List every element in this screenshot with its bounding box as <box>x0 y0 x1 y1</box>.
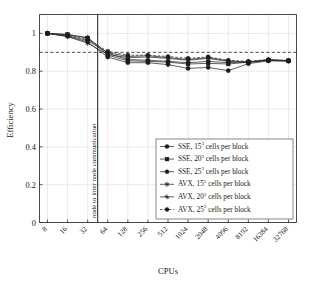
x-tick-label: 8192 <box>234 225 250 241</box>
y-axis-ticks: 00.20.40.60.81 <box>26 29 43 227</box>
chart-legend: SSE, 153 cells per blockSSE, 203 cells p… <box>156 139 293 219</box>
x-tick-label: 32768 <box>272 225 291 244</box>
x-tick-label: 2048 <box>194 225 210 241</box>
efficiency-scaling-chart: 00.20.40.60.81 8163264128256512102420484… <box>0 0 309 287</box>
y-axis-title: Efficiency <box>5 101 15 137</box>
x-tick-label: 4096 <box>214 225 230 241</box>
x-tick-label: 128 <box>116 225 130 239</box>
x-tick-label: 32 <box>78 225 89 236</box>
x-tick-label: 64 <box>98 225 109 236</box>
x-tick-label: 16 <box>58 225 69 236</box>
x-tick-label: 256 <box>136 225 150 239</box>
y-tick-label: 0.4 <box>26 143 37 152</box>
legend-item-label: AVX, 253 cells per block <box>178 204 251 213</box>
y-tick-label: 0 <box>32 219 36 228</box>
divider-annotation-label: node to inter node communication <box>90 123 97 218</box>
legend-item-label: SSE, 153 cells per block <box>178 141 249 150</box>
legend-item-label: AVX, 153 cells per block <box>178 179 251 188</box>
legend-item-label: SSE, 253 cells per block <box>178 166 249 175</box>
legend-item-label: AVX, 203 cells per block <box>178 192 251 201</box>
x-tick-label: 512 <box>156 225 170 239</box>
y-tick-label: 1 <box>32 29 36 38</box>
legend-item-label: SSE, 203 cells per block <box>178 154 249 163</box>
x-tick-label: 16384 <box>251 225 270 244</box>
x-tick-label: 8 <box>41 225 49 233</box>
y-tick-label: 0.2 <box>26 181 36 190</box>
x-axis-title: CPUs <box>158 266 179 276</box>
chart-canvas: 00.20.40.60.81 8163264128256512102420484… <box>0 0 309 287</box>
x-axis-ticks: 8163264128256512102420484096819216384327… <box>41 220 290 244</box>
x-tick-label: 1024 <box>174 225 190 241</box>
y-tick-label: 0.8 <box>26 67 36 76</box>
y-tick-label: 0.6 <box>26 105 36 114</box>
